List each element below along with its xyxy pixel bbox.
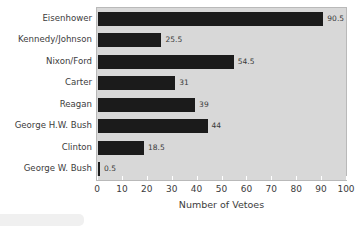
x-tick-mark xyxy=(172,176,173,180)
x-tick-label: 0 xyxy=(94,183,100,195)
x-tick-label: 50 xyxy=(216,183,227,195)
category-axis-labels: EisenhowerKennedy/JohnsonNixon/FordCarte… xyxy=(0,7,92,181)
bar-value-label: 39 xyxy=(199,99,209,111)
corner-artifact xyxy=(0,214,84,226)
x-axis-title: Number of Vetoes xyxy=(96,199,347,210)
x-tick-mark xyxy=(147,176,148,180)
bar xyxy=(98,141,144,155)
x-tick-label: 30 xyxy=(166,183,177,195)
bar-row: 31 xyxy=(98,76,347,90)
x-tick-label: 20 xyxy=(141,183,152,195)
x-tick-mark xyxy=(122,176,123,180)
bar-chart-figure: EisenhowerKennedy/JohnsonNixon/FordCarte… xyxy=(0,0,361,231)
bar xyxy=(98,55,234,69)
bar-row: 90.5 xyxy=(98,12,347,26)
x-tick-label: 100 xyxy=(337,183,354,195)
x-tick-mark xyxy=(246,176,247,180)
bar-value-label: 44 xyxy=(212,120,222,132)
bar xyxy=(98,98,195,112)
category-label: George W. Bush xyxy=(0,161,92,175)
bar-value-label: 31 xyxy=(179,77,189,89)
x-tick-mark xyxy=(197,176,198,180)
category-label: Reagan xyxy=(0,97,92,111)
bar-value-label: 25.5 xyxy=(165,34,182,46)
bar-value-label: 90.5 xyxy=(327,13,344,25)
x-tick-label: 90 xyxy=(315,183,326,195)
category-label: Carter xyxy=(0,75,92,89)
x-tick-mark xyxy=(271,176,272,180)
bar xyxy=(98,76,175,90)
bar xyxy=(98,162,100,176)
bar xyxy=(98,119,208,133)
bar xyxy=(98,12,323,26)
bar xyxy=(98,33,161,47)
x-tick-mark xyxy=(97,176,98,180)
x-tick-label: 40 xyxy=(191,183,202,195)
x-tick-label: 70 xyxy=(266,183,277,195)
x-tick-label: 80 xyxy=(290,183,301,195)
bar-value-label: 18.5 xyxy=(148,142,165,154)
bar-row: 25.5 xyxy=(98,33,347,47)
bar-value-label: 54.5 xyxy=(238,56,255,68)
category-label: George H.W. Bush xyxy=(0,118,92,132)
bar-row: 44 xyxy=(98,119,347,133)
x-tick-mark xyxy=(321,176,322,180)
x-tick-mark xyxy=(346,176,347,180)
category-label: Eisenhower xyxy=(0,11,92,25)
category-label: Clinton xyxy=(0,140,92,154)
plot-area: 90.525.554.531394418.50.5 xyxy=(96,7,347,181)
x-axis-tick-labels: 0102030405060708090100 xyxy=(96,183,347,197)
bar-row: 0.5 xyxy=(98,162,347,176)
x-tick-label: 10 xyxy=(116,183,127,195)
category-label: Kennedy/Johnson xyxy=(0,32,92,46)
x-tick-mark xyxy=(296,176,297,180)
bar-row: 39 xyxy=(98,98,347,112)
bar-row: 18.5 xyxy=(98,141,347,155)
x-tick-mark xyxy=(222,176,223,180)
category-label: Nixon/Ford xyxy=(0,54,92,68)
bar-value-label: 0.5 xyxy=(104,163,116,175)
x-tick-label: 60 xyxy=(241,183,252,195)
bar-row: 54.5 xyxy=(98,55,347,69)
